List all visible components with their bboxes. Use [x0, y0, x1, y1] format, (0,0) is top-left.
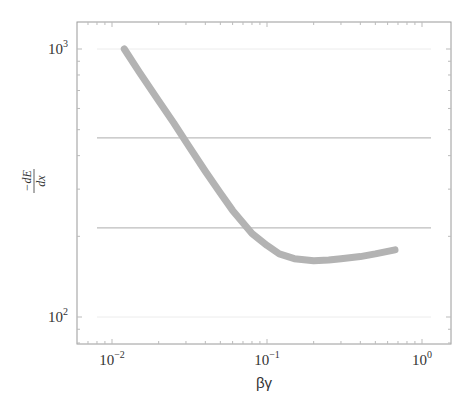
- x-tick-label: 10−2: [99, 349, 125, 368]
- y-tick-labels: 103102: [48, 38, 68, 325]
- y-tick-label: 103: [48, 38, 68, 57]
- minor-ticks: [77, 22, 451, 344]
- x-tick-label: 100: [412, 349, 432, 368]
- x-tick-labels: 10−210−1100: [99, 349, 432, 368]
- plot-frame: [77, 22, 451, 344]
- chart: 10−210−1100 103102 βγ −dE dx: [0, 0, 470, 410]
- x-tick-label: 10−1: [254, 349, 280, 368]
- data-curve: [124, 49, 395, 261]
- svg-text:dx: dx: [34, 175, 48, 187]
- x-axis-label: βγ: [256, 374, 273, 391]
- svg-text:−dE: −dE: [20, 170, 34, 192]
- y-tick-label: 102: [48, 306, 68, 325]
- reference-lines: [97, 138, 431, 228]
- y-axis-label: −dE dx: [20, 169, 48, 193]
